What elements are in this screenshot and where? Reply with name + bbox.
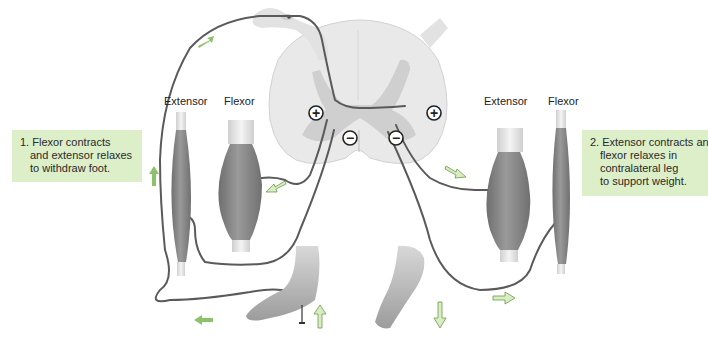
svg-text:+: + [312,105,320,121]
right-flexor-label: Flexor [548,95,579,107]
callout-line: to withdraw foot. [20,162,134,175]
left-flexor-label: Flexor [224,95,255,107]
left-extensor-label: Extensor [164,95,207,107]
callout-line: and extensor relaxes [20,149,134,162]
left-foot [246,246,319,323]
svg-text:−: − [346,130,354,146]
left-flexor-muscle [218,120,262,252]
callout-contralateral-extension: 2. Extensor contracts and flexor relaxes… [582,130,708,196]
callout-line: 2. Extensor contracts and [590,136,700,149]
svg-text:+: + [430,105,438,121]
right-foot [375,246,424,329]
callout-line: contralateral leg [590,162,700,175]
right-flexor-muscle [552,110,570,274]
left-extensor-muscle [171,112,191,276]
callout-line: flexor relaxes in [590,149,700,162]
crossed-extensor-reflex-diagram: + − − + Extensor Flexor Extensor Flexor [0,0,708,341]
svg-text:−: − [392,130,400,146]
right-extensor-label: Extensor [484,95,527,107]
callout-flexor-withdrawal: 1. Flexor contracts and extensor relaxes… [12,130,142,182]
right-extensor-muscle [486,128,530,262]
callout-line: to support weight. [590,175,700,188]
callout-line: 1. Flexor contracts [20,136,134,149]
